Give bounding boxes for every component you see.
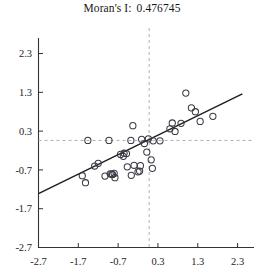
scatter-point [183,90,189,96]
scatter-point [144,149,150,155]
scatter-point [149,165,155,171]
scatter-point [124,164,130,170]
regression-line-segment [39,94,243,194]
regression-line [39,94,243,194]
x-tick-label: -1.7 [70,256,87,267]
scatter-point [79,173,85,179]
y-tick-label: -2.7 [15,242,32,253]
scatter-point [131,162,137,168]
scatter-point [172,128,178,134]
plot-axes [38,38,254,248]
y-tick-label: 2.3 [19,48,32,59]
scatter-point [197,118,203,124]
moran-scatter-figure: Moran's I:0.476745 -2.7-1.7-0.70.31.32.3… [0,0,264,274]
scatter-point [130,123,136,129]
scatter-point [192,109,198,115]
x-tick-label: -2.7 [30,256,47,267]
scatter-point [148,157,154,163]
tick-labels: -2.7-1.7-0.70.31.32.3-2.7-1.7-0.70.31.32… [15,48,244,267]
tick-marks [39,54,238,248]
y-tick-label: 0.3 [19,126,32,137]
scatter-point [82,180,88,186]
y-tick-label: -0.7 [15,165,32,176]
scatter-point [128,172,134,178]
data-points [79,90,216,186]
x-tick-label: 2.3 [231,256,244,267]
x-tick-label: 1.3 [191,256,204,267]
scatter-point [169,120,175,126]
scatter-point [210,113,216,119]
x-tick-label: 0.3 [151,256,164,267]
y-tick-label: -1.7 [15,203,32,214]
reference-lines [39,28,255,248]
x-tick-label: -0.7 [110,256,127,267]
scatter-plot-canvas: -2.7-1.7-0.70.31.32.3-2.7-1.7-0.70.31.32… [0,0,264,274]
scatter-point [188,105,194,111]
y-tick-label: 1.3 [19,87,32,98]
